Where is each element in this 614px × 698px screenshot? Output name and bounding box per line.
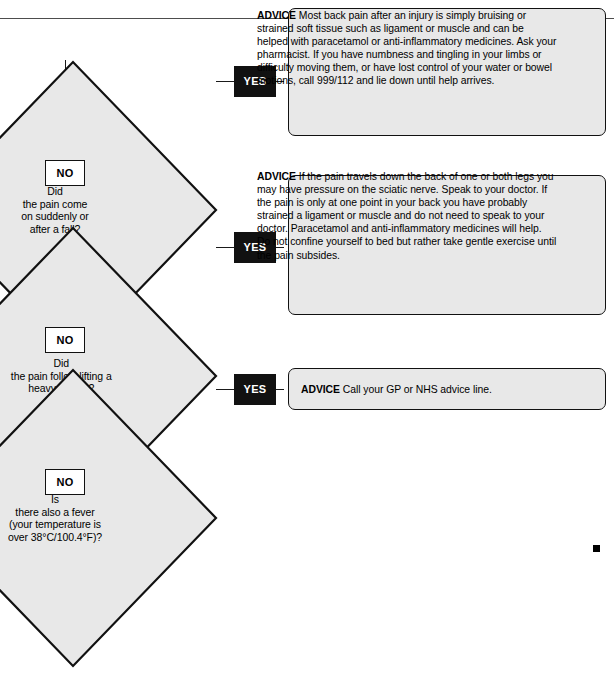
- decision-2-no-tag: NO: [45, 327, 85, 353]
- decision-3-yes-label: YES: [244, 383, 267, 395]
- advice-box-3-prefix: ADVICE: [301, 384, 340, 395]
- decision-3-yes-tag: YES: [234, 374, 276, 405]
- advice-box-3-text: ADVICE Call your GP or NHS advice line.: [301, 383, 591, 397]
- decision-1-no-tag: NO: [45, 160, 85, 186]
- flowchart-stage: Did the pain come on suddenly or after a…: [0, 0, 614, 698]
- decision-3-no-tag: NO: [45, 469, 85, 495]
- flowchart-canvas: Did the pain come on suddenly or after a…: [0, 0, 614, 698]
- start-dot: [593, 545, 600, 552]
- advice-box-2-body: If the pain travels down the back of one…: [257, 171, 556, 261]
- decision-2-no-label: NO: [56, 334, 73, 346]
- advice-box-3-body: Call your GP or NHS advice line.: [340, 384, 492, 395]
- decision-3-no-label: NO: [56, 476, 73, 488]
- decision-3-label: Is there also a fever (your temperature …: [0, 493, 130, 543]
- advice-box-1-body: Most back pain after an injury is simply…: [257, 10, 556, 86]
- advice-box-2-prefix: ADVICE: [257, 171, 296, 182]
- advice-box-2-text: ADVICE If the pain travels down the back…: [257, 170, 557, 292]
- decision-1-no-label: NO: [56, 167, 73, 179]
- advice-box-1-text: ADVICE Most back pain after an injury is…: [257, 9, 557, 119]
- advice-box-1-prefix: ADVICE: [257, 10, 296, 21]
